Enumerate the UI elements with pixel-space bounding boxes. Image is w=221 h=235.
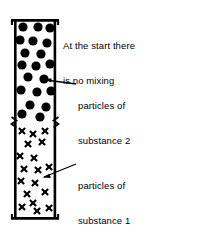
particle-substance-2-0: [18, 22, 27, 31]
particle-substance-1-6: [31, 155, 37, 161]
particle-substance-2-9: [31, 61, 40, 70]
particle-substance-1-14: [19, 204, 25, 210]
caption-no-mixing-line1: At the start there: [63, 40, 135, 52]
particle-substance-1-17: [46, 205, 52, 211]
particle-substance-1-7: [21, 166, 27, 172]
particle-group-substance-1: [17, 128, 52, 214]
particle-substance-2-10: [45, 59, 54, 68]
particle-substance-2-8: [17, 60, 26, 69]
particle-substance-1-5: [17, 153, 23, 159]
caption-particles-substance-1-line2: substance 1: [78, 215, 130, 227]
particle-group-substance-2: [15, 22, 55, 121]
particle-substance-2-17: [41, 102, 50, 111]
particle-substance-1-2: [42, 128, 48, 134]
particle-substance-1-16: [34, 208, 40, 214]
particle-substance-1-12: [24, 191, 30, 197]
particle-substance-2-4: [28, 36, 37, 45]
particle-substance-2-6: [20, 48, 29, 57]
particle-substance-1-4: [39, 139, 45, 145]
caption-particles-substance-2-line1: particles of: [78, 100, 130, 112]
particle-substance-2-13: [16, 85, 25, 94]
particle-substance-1-13: [42, 189, 48, 195]
particle-substance-2-11: [23, 72, 32, 81]
tube-outline: [11, 20, 59, 219]
particle-substance-2-1: [33, 22, 42, 31]
particle-substance-1-8: [35, 167, 41, 173]
particle-substance-2-3: [15, 35, 24, 44]
particle-substance-2-19: [35, 112, 44, 121]
particle-substance-1-9: [46, 164, 52, 170]
diffusion-tube-figure: At the start there is no mixing particle…: [0, 0, 221, 235]
particle-substance-1-0: [19, 128, 25, 134]
particle-substance-2-7: [36, 49, 45, 58]
particle-substance-1-15: [30, 200, 36, 206]
particle-substance-2-15: [46, 86, 55, 95]
particle-substance-1-3: [25, 141, 31, 147]
particle-substance-1-1: [30, 131, 36, 137]
particle-substance-1-10: [18, 178, 24, 184]
particle-substance-2-5: [42, 38, 51, 47]
caption-particles-substance-2-line2: substance 2: [78, 135, 130, 147]
particle-substance-1-11: [32, 180, 38, 186]
caption-particles-substance-1-line1: particles of: [78, 180, 130, 192]
particle-substance-2-16: [25, 100, 34, 109]
leader-arrow-substance-1: [43, 174, 51, 178]
particle-substance-2-18: [17, 109, 26, 118]
particle-substance-2-14: [32, 87, 41, 96]
particle-substance-2-2: [45, 23, 54, 32]
caption-particles-substance-1: particles of substance 1: [78, 157, 130, 235]
caption-particles-substance-2: particles of substance 2: [78, 77, 130, 169]
substance-boundary-marks: [12, 117, 59, 128]
